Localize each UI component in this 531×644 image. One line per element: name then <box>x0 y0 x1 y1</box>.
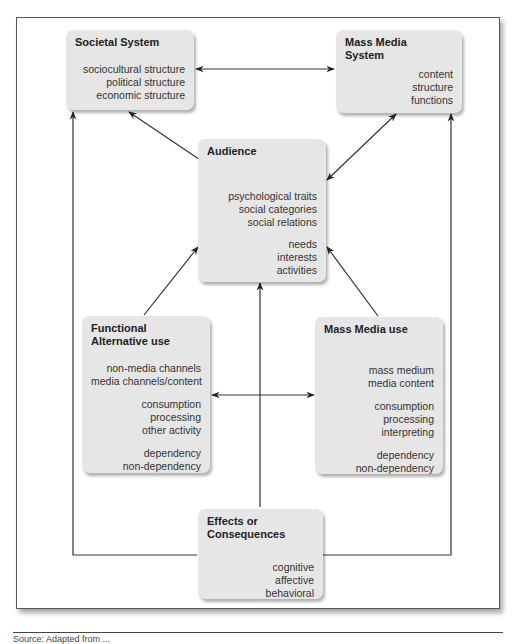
box-attributes: content structure functions <box>345 68 453 107</box>
arrow-mediause-audience <box>327 247 378 316</box>
societal-system-box: Societal System sociocultural structure … <box>66 30 194 110</box>
box-title: Societal System <box>75 36 185 49</box>
box-title: Functional Alternative use <box>91 322 201 348</box>
effects-consequences-box: Effects or Consequences cognitive affect… <box>198 509 323 599</box>
box-attributes-medium: mass medium media content <box>324 364 434 390</box>
arrow-massmedia-audience <box>327 114 396 180</box>
box-attributes-dependency: dependency non-dependency <box>324 449 434 475</box>
figure-caption: Source: Adapted from ... <box>13 634 110 644</box>
caption-divider <box>13 632 503 633</box>
functional-alternative-use-box: Functional Alternative use non-media cha… <box>82 316 210 473</box>
box-attributes-traits: psychological traits social categories s… <box>207 190 317 229</box>
box-attributes: sociocultural structure political struct… <box>75 63 185 102</box>
box-attributes-activity: consumption processing other activity <box>91 398 201 437</box>
box-attributes-activity: consumption processing interpreting <box>324 400 434 439</box>
box-title: Effects or Consequences <box>207 515 314 541</box>
box-attributes-needs: needs interests activities <box>207 238 317 277</box>
box-title: Mass Media use <box>324 323 434 336</box>
box-attributes-dependency: dependency non-dependency <box>91 447 201 473</box>
box-attributes: cognitive affective behavioral <box>207 561 314 600</box>
box-attributes-channels: non-media channels media channels/conten… <box>91 362 201 388</box>
audience-box: Audience psychological traits social cat… <box>198 139 326 282</box>
mass-media-use-box: Mass Media use mass medium media content… <box>315 317 443 474</box>
mass-media-system-box: Mass Media System content structure func… <box>336 30 462 113</box>
box-title: Audience <box>207 145 317 158</box>
arrow-functional-audience <box>144 247 198 315</box>
box-title: Mass Media System <box>345 36 453 62</box>
